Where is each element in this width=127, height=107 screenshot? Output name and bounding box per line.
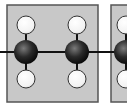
- carbon-atom: [65, 40, 89, 64]
- hydrogen-atom: [17, 16, 35, 34]
- carbon-atom: [14, 40, 38, 64]
- polymer-diagram: [0, 0, 127, 107]
- hydrogen-atom: [68, 16, 86, 34]
- hydrogen-atom: [17, 70, 35, 88]
- hydrogen-atom: [68, 70, 86, 88]
